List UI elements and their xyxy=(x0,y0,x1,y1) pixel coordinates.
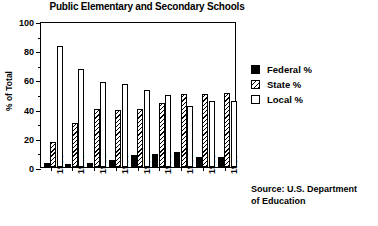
bar-group-1940 xyxy=(65,23,84,167)
bar-state-1940 xyxy=(72,123,78,167)
y-tick-label-100: 100 xyxy=(19,18,34,28)
y-tick-label-0: 0 xyxy=(29,164,34,174)
bar-local-1985 xyxy=(209,101,215,167)
x-tick-1985 xyxy=(203,167,204,171)
legend-swatch-state-icon xyxy=(251,80,260,89)
bar-state-1950 xyxy=(94,109,100,167)
x-tick-1987 xyxy=(225,167,226,171)
legend-label-state: State % xyxy=(267,79,301,90)
bar-state-1975 xyxy=(159,103,165,167)
bar-local-1987 xyxy=(231,101,237,167)
bar-federal-1960 xyxy=(109,160,115,167)
y-axis-label: % of Total xyxy=(4,51,14,131)
bar-federal-1980 xyxy=(174,152,180,167)
y-tick-0 xyxy=(36,169,41,170)
bar-federal-1985 xyxy=(196,157,202,167)
bar-group-1930 xyxy=(44,23,63,167)
bar-state-1970 xyxy=(137,109,143,167)
bar-local-1930 xyxy=(57,46,63,167)
chart-figure: Public Elementary and Secondary Schools … xyxy=(0,0,378,226)
x-tick-1980 xyxy=(181,167,182,171)
bar-federal-1930 xyxy=(44,163,50,167)
bar-group-1975 xyxy=(152,23,171,167)
bar-group-1987 xyxy=(218,23,237,167)
legend-item-local: Local % xyxy=(251,92,371,107)
x-tick-1950 xyxy=(94,167,95,171)
source-line-2: of Education xyxy=(251,196,376,208)
bars-layer xyxy=(41,23,235,167)
source-note: Source: U.S. Department of Education xyxy=(251,184,376,207)
bar-state-1985 xyxy=(202,94,208,167)
chart-legend: Federal %State %Local % xyxy=(251,62,371,107)
bar-group-1970 xyxy=(131,23,150,167)
chart-title: Public Elementary and Secondary Schools xyxy=(44,1,250,12)
bar-group-1985 xyxy=(196,23,215,167)
y-tick-label-80: 80 xyxy=(24,47,34,57)
bar-group-1950 xyxy=(87,23,106,167)
plot-area: 020406080100 193019401950196019701975198… xyxy=(40,22,236,168)
bar-group-1980 xyxy=(174,23,193,167)
bar-local-1980 xyxy=(187,106,193,167)
x-tick-1930 xyxy=(51,167,52,171)
legend-item-state: State % xyxy=(251,77,371,92)
bar-local-1940 xyxy=(78,69,84,167)
bar-local-1960 xyxy=(122,84,128,167)
legend-swatch-federal-icon xyxy=(251,65,260,74)
legend-label-local: Local % xyxy=(267,94,303,105)
bar-group-1960 xyxy=(109,23,128,167)
legend-item-federal: Federal % xyxy=(251,62,371,77)
bar-federal-1950 xyxy=(87,163,93,167)
x-tick-1970 xyxy=(138,167,139,171)
x-tick-1960 xyxy=(116,167,117,171)
bar-state-1980 xyxy=(181,94,187,167)
y-tick-label-60: 60 xyxy=(24,76,34,86)
bar-local-1975 xyxy=(165,95,171,167)
bar-federal-1975 xyxy=(152,154,158,167)
bar-local-1950 xyxy=(100,82,106,167)
source-line-1: Source: U.S. Department xyxy=(251,184,376,196)
bar-state-1987 xyxy=(224,93,230,167)
bar-federal-1987 xyxy=(218,157,224,167)
bar-federal-1940 xyxy=(65,164,71,167)
y-tick-label-20: 20 xyxy=(24,135,34,145)
x-tick-1975 xyxy=(159,167,160,171)
legend-label-federal: Federal % xyxy=(267,64,312,75)
x-tick-1940 xyxy=(72,167,73,171)
y-tick-label-40: 40 xyxy=(24,106,34,116)
bar-federal-1970 xyxy=(131,155,137,167)
bar-state-1960 xyxy=(115,110,121,167)
bar-state-1930 xyxy=(50,142,56,167)
bar-local-1970 xyxy=(144,90,150,167)
legend-swatch-local-icon xyxy=(251,95,260,104)
